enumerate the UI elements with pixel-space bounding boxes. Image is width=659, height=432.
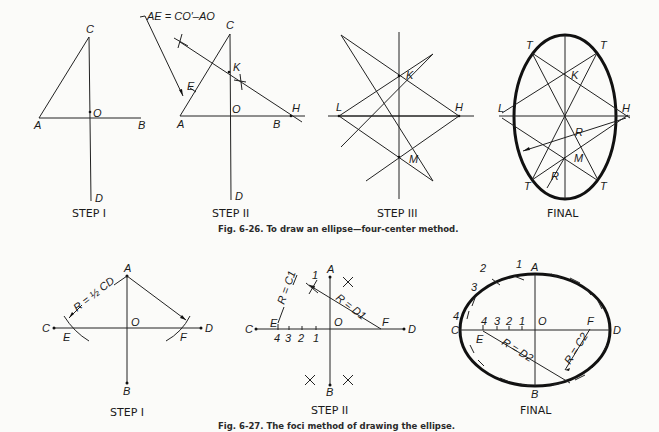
point-label-f: F [382,316,390,328]
radius-label: R [575,126,583,138]
construction-annotation: AE = CO′–AO [146,10,215,22]
step-label: STEP II [311,404,348,417]
division-label-3: 3 [494,315,501,327]
point-label-e: E [476,333,484,345]
point-label-a: A [176,118,184,130]
point-label-a: A [33,119,41,131]
fig626-step2: AE = CO′–AO C K E O H A B D STEP II [140,10,305,220]
radius-annotation: R = C1 [275,269,298,306]
point-label-m: M [574,152,584,164]
point-label-o: O [334,316,343,328]
point-label-d: D [95,192,103,204]
fig627-step2: R = C1 R = D1 1 A C E O F D 4 3 2 1 B ST… [245,263,416,417]
point-label-a: A [123,262,131,274]
point-label-k: K [571,69,579,81]
point-label-c: C [42,322,50,334]
point-label-f: F [180,331,188,343]
point-label-o: O [232,103,241,115]
point-label-l: L [498,102,504,114]
point-label-l: L [336,101,342,113]
point-label-o: O [93,107,102,119]
point-label-h: H [622,102,630,114]
division-label-1: 1 [313,332,319,344]
point-label-d: D [205,322,213,334]
step-label: STEP I [110,406,144,419]
division-label-2: 2 [297,332,304,344]
radius-annotation: R = ½ CD [71,274,117,313]
point-label-c: C [86,23,94,35]
fig626-step3: K L H M STEP III [328,32,474,220]
step-label: STEP I [72,207,106,220]
fig626-final: T T K L H R M R T T FINAL [498,35,630,220]
fig627-final: 2 1 A 3 4 C 4 3 2 1 O F D E R = D2 R = C… [451,258,621,417]
arc-label-2: 2 [479,262,486,274]
radius-annotation: R = C2 [562,330,590,366]
fig627-step1: R = ½ CD A C E O F D B STEP I [42,262,213,419]
point-label-o: O [131,316,140,328]
point-label-t: T [526,39,534,51]
step-label: STEP III [377,207,418,220]
point-label-o: O [538,315,547,327]
radius-label: R [551,170,559,182]
step-label: STEP II [212,207,249,220]
point-label-d: D [613,324,621,336]
point-label-b: B [123,385,130,397]
point-label-e: E [63,331,71,343]
point-label-h: H [292,102,300,114]
point-label-m: M [409,153,419,165]
point-label-t: T [600,180,608,192]
point-label-c: C [451,324,459,336]
point-label-b: B [138,119,145,131]
technical-drawing-page: C O A B D STEP I AE = CO′–AO C K E O H A… [0,0,659,432]
point-label-b: B [326,386,333,398]
division-label-3: 3 [285,332,292,344]
figure-caption: Fig. 6-26. To draw an ellipse—four-cente… [218,224,458,234]
point-label-b: B [531,388,538,400]
point-label-k: K [406,69,414,81]
point-label-f: F [587,315,595,327]
arc-label-3: 3 [471,281,478,293]
point-label-e: E [187,80,195,92]
point-label-c: C [226,19,234,31]
fig626-step1: C O A B D STEP I [33,23,145,220]
point-label-h: H [455,101,463,113]
point-label-d: D [408,323,416,335]
figure-caption: Fig. 6-27. The foci method of drawing th… [218,421,455,431]
step-label: FINAL [520,404,552,417]
point-label-d: D [235,190,243,202]
radius-annotation: R = D2 [500,336,536,364]
division-label-4: 4 [481,315,487,327]
point-label-e: E [270,317,278,329]
point-label-a: A [326,263,334,275]
division-label-1: 1 [519,315,525,327]
step-label: FINAL [547,207,579,220]
point-label-t: T [524,180,532,192]
point-label-t: T [600,39,608,51]
point-label-a: A [530,261,538,273]
division-label-2: 2 [505,315,512,327]
arc-label-4: 4 [453,310,459,322]
arc-label-1: 1 [516,258,522,270]
division-label-4: 4 [274,332,280,344]
point-label-k: K [233,61,241,73]
arc-label-1: 1 [312,269,318,281]
point-label-b: B [273,118,280,130]
point-label-c: C [245,323,253,335]
